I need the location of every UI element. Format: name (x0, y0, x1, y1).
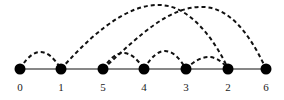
node-6 (261, 64, 272, 75)
arc-5-6 (103, 7, 266, 69)
node-label: 3 (183, 81, 189, 93)
node-0 (15, 64, 26, 75)
node-2 (223, 64, 234, 75)
node-label: 1 (58, 81, 64, 93)
node-1 (56, 64, 67, 75)
node-5 (98, 64, 109, 75)
node-label: 4 (141, 81, 147, 93)
arc-diagram: 0154326 (0, 0, 284, 100)
node-3 (181, 64, 192, 75)
arc-1-2 (61, 5, 228, 69)
node-label: 6 (263, 81, 269, 93)
arc-4-3 (144, 51, 186, 69)
node-label: 5 (100, 81, 106, 93)
node-label: 0 (17, 81, 23, 93)
node-label: 2 (225, 81, 231, 93)
node-4 (139, 64, 150, 75)
arc-5-4 (103, 53, 144, 69)
arc-0-1 (20, 52, 61, 69)
arc-3-2 (186, 57, 228, 69)
